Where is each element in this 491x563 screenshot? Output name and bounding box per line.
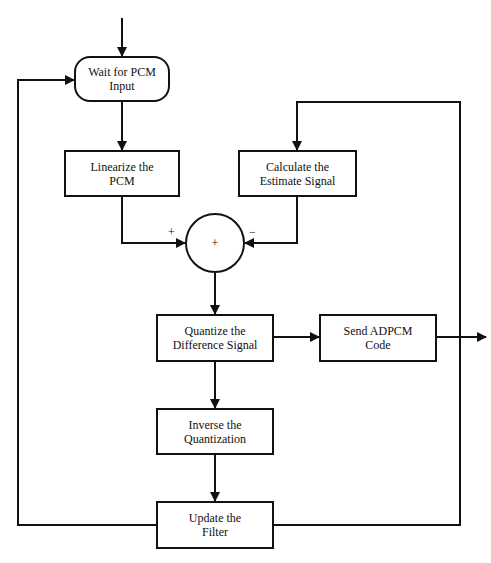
node-label-line2: Code	[365, 338, 390, 352]
arrow-linearize-to-summer	[122, 197, 185, 243]
node-label-line1: Send ADPCM	[343, 324, 412, 338]
node-send-adpcm-code: Send ADPCM Code	[319, 314, 437, 362]
summing-junction: +	[185, 213, 245, 273]
node-inverse-quantization: Inverse the Quantization	[156, 408, 274, 455]
node-wait-for-pcm-input: Wait for PCM Input	[74, 56, 170, 102]
node-label-line1: Linearize the	[91, 160, 154, 174]
node-label-line2: Estimate Signal	[260, 174, 336, 188]
node-label-line2: Difference Signal	[173, 338, 258, 352]
node-label-line2: Filter	[202, 525, 228, 539]
plus-sign-label: +	[168, 226, 175, 238]
minus-sign-label: −	[249, 226, 256, 238]
node-linearize-pcm: Linearize the PCM	[64, 150, 180, 197]
node-quantize-difference-signal: Quantize the Difference Signal	[156, 314, 274, 362]
arrow-update-to-wait	[18, 80, 156, 525]
node-label-line2: Quantization	[184, 432, 246, 446]
node-update-filter: Update the Filter	[156, 501, 274, 549]
node-label-line1: Quantize the	[185, 324, 246, 338]
node-label-line1: Calculate the	[266, 160, 329, 174]
node-label-line2: Input	[109, 79, 134, 93]
node-label-line1: Inverse the	[189, 418, 242, 432]
node-calculate-estimate-signal: Calculate the Estimate Signal	[238, 150, 357, 197]
node-label-line2: PCM	[109, 174, 134, 188]
summer-sign: +	[212, 236, 219, 251]
node-label-line1: Update the	[189, 511, 241, 525]
node-label-line1: Wait for PCM	[88, 65, 156, 79]
